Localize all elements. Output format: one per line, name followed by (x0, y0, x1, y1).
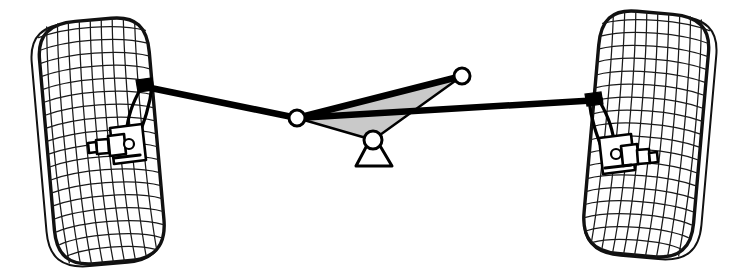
bellcrank-upper-joint (454, 68, 470, 84)
left-kingpin-circle (124, 139, 134, 149)
right-spindle-tip (649, 152, 658, 163)
steering-linkage-diagram (0, 0, 749, 277)
bellcrank-left-joint (289, 110, 305, 126)
steering-linkage-canvas (0, 0, 749, 277)
right-kingpin-circle (611, 149, 621, 159)
left-spindle-tip (88, 142, 97, 153)
bellcrank-pivot-joint (364, 131, 382, 149)
